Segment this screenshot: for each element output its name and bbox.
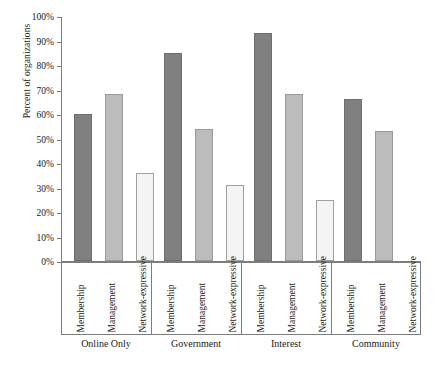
subcategory-label: Network-expressive	[319, 255, 329, 332]
y-axis-tick-label: 30%	[37, 184, 54, 194]
bars-container	[62, 17, 421, 261]
y-axis-tick-mark	[57, 189, 61, 190]
y-axis-tick-label: 80%	[37, 61, 54, 71]
y-axis-tick-mark	[57, 140, 61, 141]
y-axis-tick-mark	[57, 91, 61, 92]
subcategory-label: Network-expressive	[139, 255, 149, 332]
group-separator	[241, 262, 242, 334]
y-axis-tick-mark	[57, 66, 61, 67]
group-label: Interest	[241, 338, 331, 349]
bar	[74, 114, 92, 261]
y-axis-tick-label: 20%	[37, 208, 54, 218]
group-zone-top-border	[61, 334, 421, 335]
subcategory-label: Network-expressive	[409, 255, 419, 332]
y-axis-tick-mark	[57, 17, 61, 18]
y-axis-tick-label: 50%	[37, 135, 54, 145]
bar	[285, 94, 303, 261]
subcategory-label: Membership	[77, 284, 87, 332]
subcategory-label: Membership	[167, 284, 177, 332]
bar	[105, 94, 123, 261]
y-axis-tick-mark	[57, 164, 61, 165]
bar	[195, 129, 213, 261]
y-axis-tick-label: 0%	[41, 257, 54, 267]
bar	[344, 99, 362, 261]
subcategory-label: Management	[108, 282, 118, 332]
y-axis-tick-label: 10%	[37, 233, 54, 243]
group-separator	[151, 262, 152, 334]
group-label: Government	[151, 338, 241, 349]
subcategory-label: Membership	[347, 284, 357, 332]
group-separator	[61, 262, 62, 334]
y-axis-tick-label: 100%	[32, 12, 54, 22]
y-axis-tick-label: 60%	[37, 110, 54, 120]
group-label: Online Only	[61, 338, 151, 349]
bar	[254, 33, 272, 261]
y-axis-tick-mark	[57, 238, 61, 239]
plot-area: 0%10%20%30%40%50%60%70%80%90%100%	[61, 17, 421, 262]
subcategory-label: Membership	[257, 284, 267, 332]
bar-chart: Percent of organizations 0%10%20%30%40%5…	[0, 0, 435, 371]
subcategory-label: Network-expressive	[229, 255, 239, 332]
y-axis-tick-mark	[57, 213, 61, 214]
group-label: Community	[331, 338, 421, 349]
y-axis-tick-label: 90%	[37, 37, 54, 47]
bar	[136, 173, 154, 261]
bar	[226, 185, 244, 261]
y-axis-tick-label: 40%	[37, 159, 54, 169]
subcategory-label: Management	[288, 282, 298, 332]
bar	[316, 200, 334, 261]
subcategory-label-zone: MembershipManagementNetwork-expressiveMe…	[61, 262, 421, 334]
y-axis-tick-mark	[57, 42, 61, 43]
group-separator	[331, 262, 332, 334]
group-separator	[420, 262, 421, 334]
group-label-zone: Online OnlyGovernmentInterestCommunity	[61, 334, 421, 358]
bar	[375, 131, 393, 261]
bar	[164, 53, 182, 261]
subcategory-label: Management	[198, 282, 208, 332]
subcategory-label: Management	[378, 282, 388, 332]
y-axis-tick-mark	[57, 115, 61, 116]
y-axis-title: Percent of organizations	[22, 0, 38, 206]
y-axis-tick-label: 70%	[37, 86, 54, 96]
